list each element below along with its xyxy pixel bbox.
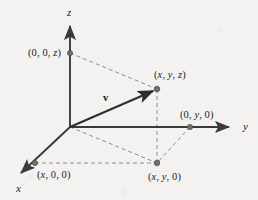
vector-v-label: v: [103, 93, 108, 104]
dash-0y0-to-xy0: [157, 127, 190, 163]
x-axis-label: x: [16, 183, 21, 194]
dot-point-xyz: [154, 86, 160, 92]
dot-point-xy-plane: [154, 160, 160, 166]
x-axis: [21, 127, 70, 173]
dash-origin-to-xy0: [70, 127, 157, 163]
label-point-z-axis: (0, 0, z): [28, 48, 61, 59]
z-axis-label: z: [67, 7, 71, 18]
dot-point-y-axis: [187, 124, 192, 129]
dot-point-x-axis: [32, 160, 37, 165]
dash-z-to-xyz: [70, 53, 157, 89]
vector-v-arrow: [70, 91, 153, 127]
label-point-xy-plane: (x, y, 0): [148, 172, 181, 183]
label-point-x-axis: (x, 0, 0): [37, 170, 71, 181]
label-point-xyz: (x, y, z): [154, 70, 186, 81]
dot-point-z-axis: [67, 50, 72, 55]
y-axis-label: y: [243, 121, 248, 132]
label-point-y-axis: (0, y, 0): [180, 110, 214, 121]
coordinate-diagram: z y x v (0, 0, z) (x, y, z) (0, y, 0) (x…: [0, 0, 258, 200]
